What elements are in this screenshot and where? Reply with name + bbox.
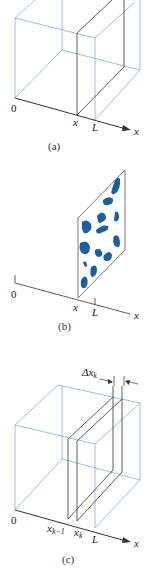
slice-label: x (72, 301, 78, 313)
end-label: L (91, 306, 98, 318)
slice-label: x (72, 116, 78, 128)
panel-a: 0 x L x (a) (11, 0, 140, 153)
caption-b: (b) (58, 320, 71, 333)
end-label: L (91, 121, 98, 133)
left-slice-label: xk−1 (46, 522, 65, 536)
slice-a (77, 0, 124, 115)
axis-label: x (133, 125, 139, 137)
x-axis-c (15, 510, 131, 543)
box-outline-a (15, 0, 140, 120)
origin-label: 0 (11, 288, 17, 300)
panel-b: 0 x L x (b) (11, 170, 139, 333)
arrow-icon (108, 379, 113, 384)
axis-label: x (133, 309, 139, 321)
figure-canvas: 0 x L x (a) 0 (0, 0, 152, 575)
end-label: L (91, 533, 98, 545)
arrow-icon (122, 125, 131, 131)
caption-c: (c) (62, 553, 75, 566)
origin-label: 0 (11, 514, 17, 526)
delta-label: Δxk (81, 366, 97, 380)
caption-a: (a) (48, 140, 61, 153)
axis-label: x (133, 537, 139, 549)
box-outline-c (15, 385, 140, 528)
origin-label: 0 (11, 102, 17, 114)
panel-c: Δxk (11, 366, 140, 566)
arrow-icon (122, 537, 131, 543)
delta-markers (100, 376, 138, 386)
arrow-icon (125, 380, 130, 385)
